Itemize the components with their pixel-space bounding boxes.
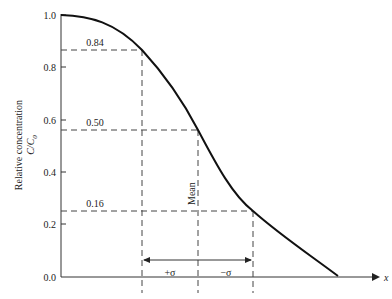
plus-sigma-label: +σ — [164, 267, 176, 278]
arrow-right-icon — [245, 257, 252, 263]
concentration-curve — [61, 15, 338, 276]
ytick-0.4: 0.4 — [44, 167, 57, 178]
svg-text:Relative concentration: Relative concentration — [13, 100, 24, 190]
ytick-0.0: 0.0 — [44, 272, 57, 283]
minus-sigma-label: −σ — [220, 267, 232, 278]
x-axis-arrow-icon — [372, 273, 380, 281]
label-016: 0.16 — [86, 198, 104, 209]
x-axis-label: x — [383, 272, 389, 283]
ytick-0.8: 0.8 — [44, 62, 57, 73]
mean-label: Mean — [186, 182, 197, 205]
label-050: 0.50 — [86, 117, 104, 128]
svg-text:C/C0: C/C0 — [25, 135, 39, 155]
ytick-1.0: 1.0 — [44, 10, 57, 21]
ytick-0.6: 0.6 — [44, 115, 57, 126]
label-084: 0.84 — [86, 37, 104, 48]
y-axis-label: Relative concentration C/C0 — [13, 100, 39, 190]
chart: 1.0 0.8 0.6 0.4 0.2 0.0 Relative concent… — [0, 0, 392, 299]
arrow-left-icon — [143, 257, 150, 263]
ytick-0.2: 0.2 — [44, 219, 57, 230]
